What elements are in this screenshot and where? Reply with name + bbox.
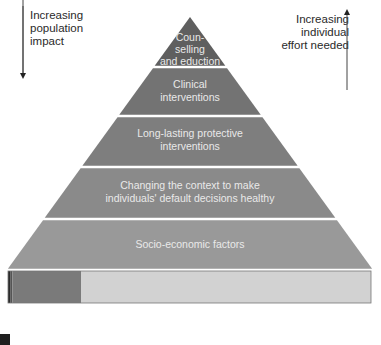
tier-3-long-lasting: Long-lasting protective interventions	[82, 117, 297, 166]
tier-4-changing-context: Changing the context to make individuals…	[45, 168, 335, 218]
base-bar	[8, 271, 371, 303]
tier-text: interventions	[160, 91, 220, 103]
tier-text: Clinical	[173, 78, 207, 90]
tier-text: Coun-	[176, 31, 205, 43]
legend-text	[16, 339, 376, 345]
right-up-arrow-icon	[344, 9, 350, 90]
tier-text: interventions	[160, 140, 220, 152]
tier-text: Long-lasting protective	[137, 127, 243, 139]
left-down-arrow-icon	[20, 0, 26, 79]
base-bar-segment-medium	[12, 271, 81, 303]
tier-text: Socio-economic factors	[135, 238, 244, 250]
tier-text: and eduction	[160, 55, 220, 67]
tier-1-counselling: Coun- selling and eduction	[155, 17, 226, 67]
tier-text: individuals' default decisions healthy	[106, 192, 276, 204]
pyramid-diagram: Coun- selling and eduction Clinical inte…	[0, 0, 381, 345]
tier-2-clinical: Clinical interventions	[119, 68, 260, 115]
base-bar-segment-dark	[10, 271, 12, 303]
tier-5-socio-economic: Socio-economic factors	[8, 220, 372, 269]
base-bar-segment-light	[81, 271, 371, 303]
tier-text: selling	[175, 43, 205, 55]
legend-swatch	[0, 334, 10, 345]
tier-text: Changing the context to make	[120, 179, 260, 191]
